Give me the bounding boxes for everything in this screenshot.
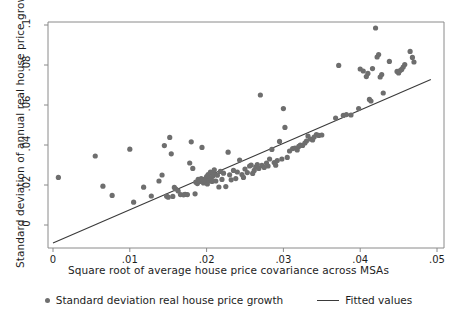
scatter-point [190,166,195,171]
legend-entry-fitted: Fitted values [317,294,412,306]
scatter-point [235,169,240,174]
legend-label-scatter: Standard deviation real house price grow… [56,294,284,306]
scatter-point [156,178,161,183]
scatter-point [169,151,174,156]
scatter-point [348,112,353,117]
scatter-point [273,163,278,168]
scatter-point [212,167,217,172]
scatter-point [411,59,416,64]
y-tick-label: .08 [21,52,32,76]
scatter-point [387,59,392,64]
legend-entry-scatter: Standard deviation real house price grow… [45,294,284,306]
scatter-point [226,150,231,155]
scatter-point [189,139,194,144]
scatter-point [365,71,370,76]
scatter-point [131,200,136,205]
scatter-plot-figure: Square root of average house price covar… [0,0,457,317]
scatter-point [408,49,413,54]
scatter-point [344,112,349,117]
scatter-point [219,177,224,182]
scatter-point [245,170,250,175]
scatter-point [237,157,242,162]
y-tick-label: .06 [21,92,32,116]
scatter-point [282,125,287,130]
scatter-point [373,25,378,30]
scatter-point [381,90,386,95]
x-tick-label: .04 [345,254,375,265]
scatter-point [100,184,105,189]
x-tick-label: .05 [422,254,452,265]
scatter-point [368,98,373,103]
scatter-point [379,72,384,77]
scatter-point [277,139,282,144]
fitted-line [53,80,431,243]
scatter-point [333,115,338,120]
scatter-point [187,160,192,165]
scatter-point [410,55,415,60]
scatter-point [127,147,132,152]
legend-label-fitted: Fitted values [345,294,412,306]
scatter-point [275,158,280,163]
y-tick-label: .1 [21,12,32,36]
dot-marker-icon [45,298,50,303]
y-tick-label: .02 [21,172,32,196]
scatter-point [402,62,407,67]
y-tick-label: 0 [21,212,32,236]
scatter-point [361,68,366,73]
scatter-point [370,66,375,71]
scatter-point [185,192,190,197]
scatter-point [241,175,246,180]
scatter-point [166,195,171,200]
scatter-point [265,163,270,168]
line-marker-icon [317,300,339,301]
x-tick-label: 0 [38,254,68,265]
scatter-point [267,156,272,161]
scatter-point [223,184,228,189]
scatter-point [192,191,197,196]
x-tick-label: .01 [115,254,145,265]
scatter-point [56,175,61,180]
scatter-point [336,63,341,68]
scatter-point [159,172,164,177]
scatter-point [258,92,263,97]
x-tick-label: .02 [192,254,222,265]
scatter-point [170,194,175,199]
scatter-point [376,52,381,57]
scatter-point [356,106,361,111]
y-tick-label: .04 [21,132,32,156]
scatter-point [227,172,232,177]
scatter-point [216,184,221,189]
scatter-point [319,132,324,137]
scatter-point [149,193,154,198]
scatter-point [279,156,284,161]
scatter-point [162,143,167,148]
scatter-point [269,147,274,152]
scatter-point [213,178,218,183]
x-tick-label: .03 [268,254,298,265]
scatter-point [141,185,146,190]
scatter-point [249,162,254,167]
plot-frame [48,22,444,248]
scatter-point [93,153,98,158]
scatter-point [199,145,204,150]
plot-area [53,25,431,243]
scatter-point [285,155,290,160]
x-axis-label: Square root of average house price covar… [0,264,457,276]
scatter-point [167,135,172,140]
chart-legend: Standard deviation real house price grow… [0,294,457,306]
scatter-point [229,177,234,182]
scatter-point [281,106,286,111]
scatter-point [233,176,238,181]
scatter-point [221,171,226,176]
scatter-point [110,193,115,198]
